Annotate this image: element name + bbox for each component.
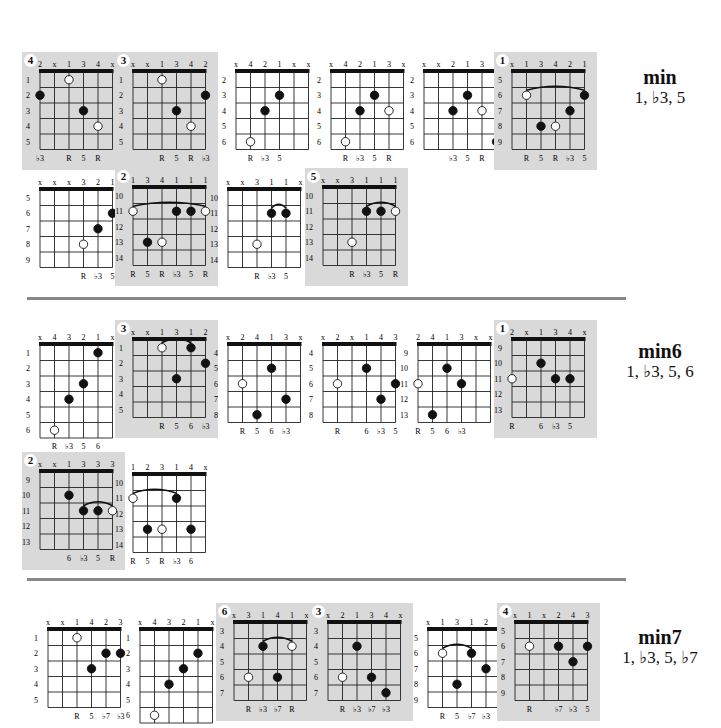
finger-label: 1 xyxy=(445,333,449,342)
finger-label: x xyxy=(146,328,150,337)
fret-number: 4 xyxy=(26,395,30,404)
finger-dot xyxy=(94,507,102,515)
interval-label: R xyxy=(81,272,87,281)
finger-dot xyxy=(143,525,151,533)
finger-label: 1 xyxy=(290,611,294,620)
interval-label: R xyxy=(246,705,252,714)
finger-dot xyxy=(102,649,110,657)
finger-dot xyxy=(537,122,545,130)
fret-number: 3 xyxy=(317,91,321,100)
fret-number: 5 xyxy=(317,122,321,131)
finger-label: 1 xyxy=(175,463,179,472)
fret-number: 3 xyxy=(26,380,30,389)
root-note-dot xyxy=(525,642,533,650)
finger-label: x xyxy=(336,176,340,185)
fret-number: 5 xyxy=(220,658,224,667)
finger-dot xyxy=(554,642,562,650)
root-note-dot xyxy=(201,207,209,215)
interval-label: 5 xyxy=(96,554,100,563)
root-note-dot xyxy=(414,380,422,388)
finger-dot xyxy=(259,642,267,650)
fret-number: 9 xyxy=(404,349,408,358)
chord-diagram: x4213x23456R♭35R xyxy=(313,52,416,170)
fret-number: 3 xyxy=(119,375,123,384)
fret-number: 5 xyxy=(34,696,38,705)
finger-label: 1 xyxy=(528,611,532,620)
finger-label: 2 xyxy=(96,178,100,187)
fret-number: 7 xyxy=(309,395,313,404)
chord-diagram: 12314x1011121314R5R♭36 xyxy=(115,455,218,573)
finger-dot xyxy=(449,107,457,115)
finger-label: 4 xyxy=(276,611,280,620)
fret-number: 9 xyxy=(498,138,502,147)
finger-label: 1 xyxy=(379,176,383,185)
interval-label: R xyxy=(289,705,295,714)
interval-label: 6 xyxy=(67,554,71,563)
finger-label: x xyxy=(53,60,57,69)
finger-dot xyxy=(172,494,180,502)
finger-dot xyxy=(457,380,465,388)
finger-label: x xyxy=(326,611,330,620)
root-note-dot xyxy=(522,91,530,99)
fret-number: 2 xyxy=(119,91,123,100)
interval-label: ♭3 xyxy=(569,705,577,714)
interval-label: 6 xyxy=(189,422,193,431)
interval-label: R xyxy=(95,154,101,163)
interval-label: ♭3 xyxy=(173,270,181,279)
fret-number: 5 xyxy=(414,634,418,643)
fret-number: 4 xyxy=(126,680,130,689)
interval-label: ♭3 xyxy=(202,422,210,431)
finger-label: 1 xyxy=(270,333,274,342)
chord-name: min xyxy=(600,66,720,88)
interval-label: ♭3 xyxy=(261,154,269,163)
fret-number: 2 xyxy=(222,76,226,85)
finger-dot xyxy=(87,665,95,673)
fret-number: 1 xyxy=(126,634,130,643)
finger-label: 3 xyxy=(146,176,150,185)
finger-label: x xyxy=(292,60,296,69)
fret-number: 11 xyxy=(115,207,123,216)
fret-number: 7 xyxy=(26,225,30,234)
root-note-dot xyxy=(338,673,346,681)
interval-label: R xyxy=(393,270,399,279)
finger-label: 1 xyxy=(75,618,79,627)
chord-diagram: x421xx23456R♭35 xyxy=(218,52,321,170)
interval-label: R xyxy=(159,557,165,566)
finger-label: x xyxy=(241,178,245,187)
fret-number: 3 xyxy=(410,91,414,100)
interval-label: R xyxy=(527,705,533,714)
finger-label: 3 xyxy=(175,60,179,69)
finger-label: 4 xyxy=(249,60,253,69)
nut xyxy=(132,185,207,189)
fret-number: 6 xyxy=(26,426,30,435)
nut xyxy=(322,185,397,189)
fret-number: 10 xyxy=(305,192,313,201)
interval-label: 6 xyxy=(539,422,543,431)
fret-number: 1 xyxy=(119,76,123,85)
finger-label: x xyxy=(510,60,514,69)
fret-number: 5 xyxy=(119,138,123,147)
interval-label: ♭3 xyxy=(36,154,44,163)
finger-label: 1 xyxy=(160,328,164,337)
interval-label: ♭3 xyxy=(259,705,267,714)
finger-label: 3 xyxy=(539,60,543,69)
interval-label: ♭3 xyxy=(94,272,102,281)
finger-dot xyxy=(275,91,283,99)
finger-label: 3 xyxy=(82,178,86,187)
finger-dot xyxy=(65,491,73,499)
fret-number: 6 xyxy=(410,138,414,147)
finger-label: x xyxy=(583,328,587,337)
fret-number: 7 xyxy=(214,395,218,404)
root-note-dot xyxy=(238,380,246,388)
finger-label: 3 xyxy=(480,60,484,69)
interval-label: R xyxy=(340,705,346,714)
fret-number: 11 xyxy=(494,375,502,384)
finger-dot xyxy=(165,680,173,688)
finger-label: x xyxy=(234,60,238,69)
fret-number: 2 xyxy=(34,649,38,658)
finger-dot xyxy=(370,91,378,99)
interval-label: R xyxy=(254,272,260,281)
interval-label: 6 xyxy=(96,442,100,451)
interval-label: 5 xyxy=(111,272,115,281)
finger-label: x xyxy=(211,618,215,627)
